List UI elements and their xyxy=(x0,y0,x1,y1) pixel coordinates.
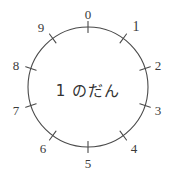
dial-number-8: 8 xyxy=(13,59,20,72)
dial-number-7: 7 xyxy=(13,104,20,117)
number-dial-diagram: 0123456789 1 のだん xyxy=(0,0,176,182)
tick-mark-9 xyxy=(50,34,56,43)
dial-number-6: 6 xyxy=(40,142,47,155)
dial-number-9: 9 xyxy=(38,21,45,34)
dial-number-2: 2 xyxy=(155,59,162,72)
center-label: 1 のだん xyxy=(56,79,120,100)
tick-mark-6 xyxy=(50,131,56,140)
dial-number-0: 0 xyxy=(85,8,92,21)
tick-mark-1 xyxy=(120,34,126,43)
dial-number-5: 5 xyxy=(85,157,92,170)
dial-number-3: 3 xyxy=(155,104,162,117)
dial-number-4: 4 xyxy=(131,142,138,155)
tick-mark-4 xyxy=(120,131,126,140)
dial-number-1: 1 xyxy=(133,20,140,34)
